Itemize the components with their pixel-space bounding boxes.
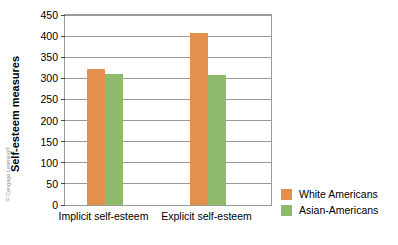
x-axis-category-label: Implicit self-esteem: [59, 210, 149, 222]
y-axis-tick: [61, 78, 65, 79]
chart-figure: © Cengage Learning® Self-esteem measures…: [0, 0, 398, 245]
bar-asian-americans: [208, 75, 226, 205]
legend-item: Asian-Americans: [281, 202, 396, 218]
legend-label: White Americans: [299, 188, 378, 200]
legend-label: Asian-Americans: [299, 204, 378, 216]
y-axis-tick: [61, 141, 65, 142]
bar-white-americans: [190, 33, 208, 205]
y-axis-title-text: Self-esteem measures: [9, 39, 21, 189]
y-axis-tick-label: 350: [40, 51, 58, 63]
bar-white-americans: [87, 69, 105, 205]
y-axis-tick: [61, 183, 65, 184]
y-axis-tick-label: 100: [40, 157, 58, 169]
y-axis-tick: [61, 120, 65, 121]
y-axis-tick-label: 0: [52, 199, 58, 211]
bar-group: [190, 15, 226, 205]
y-axis-tick: [61, 99, 65, 100]
y-axis-tick-label: 200: [40, 115, 58, 127]
y-axis-tick-label: 50: [46, 178, 58, 190]
y-axis-tick: [61, 36, 65, 37]
x-axis-category-label: Explicit self-esteem: [161, 210, 251, 222]
y-axis-tick: [61, 162, 65, 163]
y-axis-tick: [61, 205, 65, 206]
chart-legend: White AmericansAsian-Americans: [281, 186, 396, 218]
y-axis-tick-label: 450: [40, 9, 58, 21]
bar-group: [87, 15, 123, 205]
y-axis-tick-label: 150: [40, 136, 58, 148]
y-axis-title: Self-esteem measures: [6, 40, 24, 190]
y-axis-tick-label: 300: [40, 72, 58, 84]
y-axis-tick: [61, 15, 65, 16]
legend-color-swatch: [281, 205, 292, 216]
y-axis-tick-label: 250: [40, 93, 58, 105]
bar-asian-americans: [105, 74, 123, 205]
legend-item: White Americans: [281, 186, 396, 202]
plot-area: 050100150200250300350400450: [64, 14, 272, 206]
y-axis-tick: [61, 57, 65, 58]
y-axis-tick-label: 400: [40, 30, 58, 42]
legend-color-swatch: [281, 189, 292, 200]
